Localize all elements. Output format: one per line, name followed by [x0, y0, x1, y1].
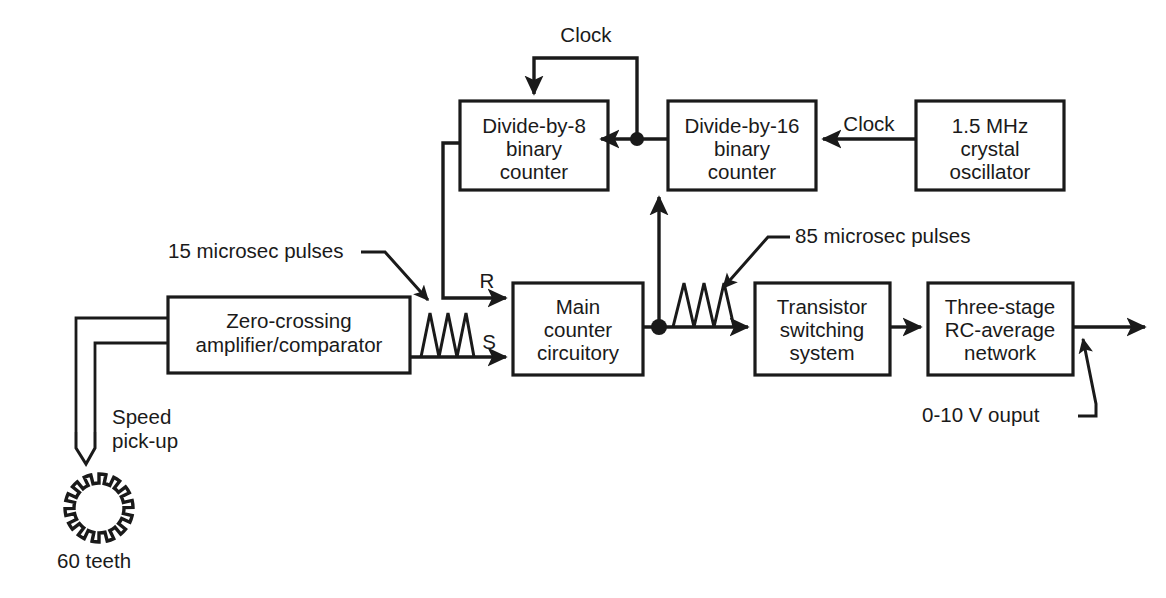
annotation-15-microsec-pulses-text: 15 microsec pulses: [168, 239, 343, 262]
block-divide-by-8[interactable]: Divide-by-8 binary counter: [460, 101, 608, 190]
speed-pickup-label-line1: Speed: [112, 405, 171, 428]
speed-pickup-probe-tip: [76, 432, 95, 464]
waveform-85-microsec-pulses: [673, 283, 734, 327]
block-zero-crossing-amplifier-label-line2: amplifier/comparator: [196, 333, 383, 356]
toothed-gear-wheel: 60 teeth: [57, 474, 133, 572]
block-transistor-switching[interactable]: Transistor switching system: [755, 283, 890, 375]
block-rc-average-network-label-line1: Three-stage: [945, 295, 1056, 318]
block-main-counter-label-line2: counter: [544, 318, 613, 341]
speed-pickup-probe: Speed pick-up: [76, 405, 178, 464]
gear-teeth-label: 60 teeth: [57, 549, 131, 572]
block-divide-by-16[interactable]: Divide-by-16 binary counter: [668, 101, 816, 190]
leader-85-microsec-pulses: [723, 237, 790, 288]
label-clock-feedback: Clock: [560, 23, 612, 46]
block-divide-by-16-label-line1: Divide-by-16: [684, 114, 799, 137]
speed-pickup-label-line2: pick-up: [112, 429, 178, 452]
block-divide-by-16-label-line2: binary: [714, 137, 771, 160]
block-rc-average-network-label-line3: network: [964, 341, 1037, 364]
junction-dot-counters: [630, 132, 644, 146]
block-crystal-oscillator-label-line2: crystal: [960, 137, 1019, 160]
annotation-85-microsec-pulses: 85 microsec pulses: [723, 224, 970, 288]
block-crystal-oscillator-label-line3: oscillator: [950, 160, 1031, 183]
block-crystal-oscillator[interactable]: 1.5 MHz crystal oscillator: [916, 101, 1064, 190]
block-transistor-switching-label-line3: system: [790, 341, 855, 364]
block-rc-average-network-label-line2: RC-average: [945, 318, 1056, 341]
block-divide-by-16-label-line3: counter: [708, 160, 777, 183]
block-main-counter-label-line3: circuitory: [537, 341, 620, 364]
pin-label-set: S: [482, 330, 496, 353]
block-crystal-oscillator-label-line1: 1.5 MHz: [952, 114, 1028, 137]
waveform-15-microsec-pulses: [421, 313, 474, 357]
block-main-counter-label-line1: Main: [556, 295, 600, 318]
junction-dot-main-output: [651, 319, 667, 335]
block-rc-average-network[interactable]: Three-stage RC-average network: [928, 283, 1073, 375]
toothed-gear-shape: [65, 474, 133, 542]
block-zero-crossing-amplifier-label-line1: Zero-crossing: [226, 309, 351, 332]
block-divide-by-8-label-line2: binary: [506, 137, 563, 160]
block-main-counter[interactable]: Main counter circuitory: [513, 283, 643, 375]
label-clock-oscillator: Clock: [843, 112, 895, 135]
block-zero-crossing-amplifier[interactable]: Zero-crossing amplifier/comparator: [168, 297, 410, 373]
annotation-85-microsec-pulses-text: 85 microsec pulses: [795, 224, 970, 247]
diagram-svg: Divide-by-8 binary counter Divide-by-16 …: [0, 0, 1166, 598]
block-transistor-switching-label-line1: Transistor: [777, 295, 868, 318]
leader-output-voltage: [1078, 339, 1096, 416]
block-divide-by-8-label-line1: Divide-by-8: [482, 114, 586, 137]
block-divide-by-8-label-line3: counter: [500, 160, 569, 183]
leader-15-microsec-pulses: [361, 252, 428, 300]
pin-label-reset: R: [480, 269, 495, 292]
block-diagram-canvas: Divide-by-8 binary counter Divide-by-16 …: [0, 0, 1166, 598]
annotation-output-voltage-text: 0-10 V ouput: [922, 403, 1040, 426]
annotation-15-microsec-pulses: 15 microsec pulses: [168, 239, 428, 300]
block-transistor-switching-label-line2: switching: [780, 318, 864, 341]
